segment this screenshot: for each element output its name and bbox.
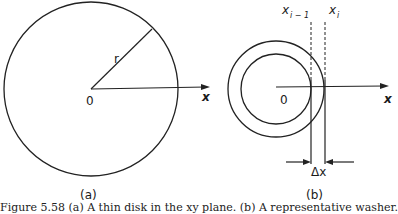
x-prev-subscript: i − 1 [290,11,309,20]
figure-b-washer: 0 x x i − 1 x i Δx (b) [228,3,393,202]
delta-arrowhead-left-icon [303,159,311,165]
x-curr-label: x [328,3,337,17]
figure-a-disk: r 0 x (a) [4,2,211,202]
radius-line [91,29,152,89]
origin-label-b: 0 [280,93,288,107]
origin-label-a: 0 [86,94,94,108]
x-axis-line [91,87,206,89]
figure-a-label: (a) [80,188,97,202]
x-axis-arrow-icon-b [380,83,389,89]
x-axis-line-b [276,86,385,87]
radius-label: r [114,52,119,66]
delta-x-label: Δx [311,165,326,179]
x-curr-subscript: i [337,11,340,20]
figure-caption: Figure 5.58 (a) A thin disk in the xy pl… [0,201,395,214]
figure-b-label: (b) [306,188,323,202]
x-prev-label: x [281,3,290,17]
outer-circle [228,41,324,137]
x-axis-label-b: x [383,92,393,106]
x-axis-label-a: x [201,90,211,104]
inner-circle [241,54,311,124]
